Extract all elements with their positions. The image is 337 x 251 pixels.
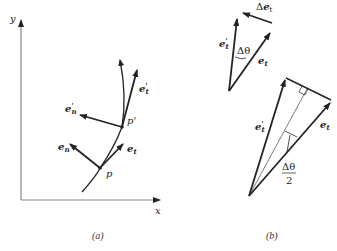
vector-e-n [70,144,100,168]
panel-b-bottom: e't et Δθ 2 (b) [249,78,331,242]
vector-e-t-prime-label: e't [139,81,150,96]
panel-a-caption: (a) [92,230,104,242]
y-axis-label: y [9,13,16,24]
delta-e-t-label: Δet [256,1,273,14]
vector-e-n-prime [80,115,122,127]
vector-e-n-label: en [58,141,69,154]
vector-e-t-prime-bottom [249,80,285,196]
point-p-prime-label: p' [127,115,136,126]
e-t-prime-label-bottom: e't [255,119,266,134]
e-t-label-bottom: et [320,119,330,132]
x-axis-label: x [155,205,161,216]
point-p-label: p [106,168,113,179]
chord-line [286,78,331,100]
vector-delta-e-t [243,13,272,23]
vector-e-n-prime-label: e'n [65,101,77,116]
panel-a: y x p p' et en e't e'n (a) [9,13,161,242]
half-angle-numerator: Δθ [282,161,295,172]
delta-theta-label-top: Δθ [237,45,250,56]
e-t-prime-label-top: e't [219,36,230,51]
panel-b-caption: (b) [266,230,278,242]
vector-e-t [100,144,123,168]
vector-e-t-label: et [127,143,137,156]
half-angle-arc [285,131,297,137]
angle-arc-top [235,57,246,59]
half-angle-denominator: 2 [286,175,292,186]
e-t-label-top: et [258,55,268,68]
kinematics-diagram: y x p p' et en e't e'n (a) [0,0,337,251]
panel-b-top: Δet e't Δθ et [219,1,273,91]
